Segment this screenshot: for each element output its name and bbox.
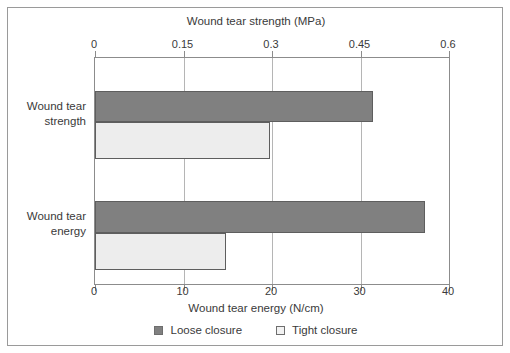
bottom-tick-label: 40 [442, 285, 454, 297]
bottom-tick-label: 0 [91, 285, 97, 297]
top-tick-mark [184, 51, 185, 57]
legend-label: Loose closure [170, 324, 242, 336]
bottom-tick-label: 20 [265, 285, 277, 297]
top-tick-mark [449, 51, 450, 57]
top-tick-label: 0.6 [440, 38, 455, 50]
legend-swatch-icon [276, 326, 285, 335]
top-tick-mark [95, 51, 96, 57]
category-label-0: Wound tear strength [27, 99, 86, 129]
bottom-tick-label: 30 [353, 285, 365, 297]
bar-loose-group1 [95, 201, 425, 233]
top-tick-mark [361, 51, 362, 57]
plot-area [94, 57, 450, 285]
top-axis-title: Wound tear strength (MPa) [8, 15, 504, 27]
bottom-axis-tick-labels: 010203040 [8, 285, 504, 299]
legend-label: Tight closure [292, 324, 357, 336]
legend-item[interactable]: Tight closure [276, 324, 357, 336]
bar-tight-group0 [95, 122, 270, 159]
top-axis-tick-labels: 00.150.30.450.6 [8, 38, 504, 52]
category-label-1: Wound tear energy [27, 209, 86, 239]
bar-loose-group0 [95, 91, 373, 122]
top-tick-mark [272, 51, 273, 57]
bottom-axis-title: Wound tear energy (N/cm) [8, 302, 504, 314]
chart-figure: Wound tear strength (MPa) 00.150.30.450.… [7, 7, 503, 346]
legend-swatch-icon [154, 326, 163, 335]
bottom-tick-label: 10 [176, 285, 188, 297]
category-axis-labels: Wound tear strengthWound tear energy [8, 57, 94, 283]
top-tick-label: 0.3 [263, 38, 278, 50]
legend-item[interactable]: Loose closure [154, 324, 242, 336]
top-tick-label: 0.15 [172, 38, 193, 50]
top-tick-label: 0.45 [349, 38, 370, 50]
chart-legend: Loose closureTight closure [8, 324, 504, 336]
bar-tight-group1 [95, 233, 226, 270]
top-tick-label: 0 [91, 38, 97, 50]
